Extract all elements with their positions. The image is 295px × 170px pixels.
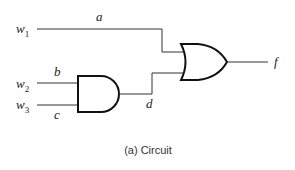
or-gate bbox=[181, 44, 227, 80]
figure-caption: (a) Circuit bbox=[124, 144, 172, 156]
signal-d-label: d bbox=[146, 96, 153, 111]
signal-b-label: b bbox=[54, 64, 61, 79]
signal-f-label: f bbox=[274, 54, 280, 69]
signal-a-label: a bbox=[96, 9, 103, 24]
input-w2-label: w2 bbox=[16, 76, 29, 94]
wire-a bbox=[37, 29, 183, 52]
signal-c-label: c bbox=[54, 107, 60, 122]
and-gate bbox=[78, 76, 119, 112]
wire-d bbox=[119, 73, 183, 94]
input-w3-label: w3 bbox=[16, 97, 30, 115]
circuit-diagram: w1 w2 w3 a b c d f (a) Circuit bbox=[0, 0, 295, 170]
input-w1-label: w1 bbox=[16, 21, 29, 39]
